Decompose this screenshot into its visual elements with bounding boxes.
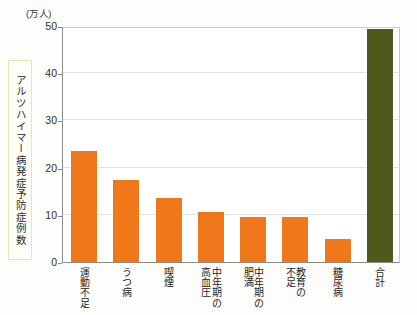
y-axis-unit-label: (万人)	[26, 6, 51, 20]
x-tick-label: 糖尿病	[316, 267, 358, 298]
x-tick-label-column: 不足	[284, 267, 294, 287]
gridline	[63, 72, 399, 73]
bar	[282, 217, 308, 262]
gridline	[63, 167, 399, 168]
x-tick-label-column: 教育の	[294, 267, 304, 298]
y-tick-label: 40	[33, 67, 57, 79]
x-tick-label-column: 高血圧	[200, 267, 210, 298]
x-tick-label-column: 合計	[374, 267, 384, 287]
y-axis-title: アルツハイマー病発症予防症例数	[14, 75, 25, 246]
y-tick-mark	[58, 263, 62, 264]
x-tick-label-column: うつ病	[120, 267, 130, 298]
bar	[198, 212, 224, 262]
y-tick-label: 20	[33, 162, 57, 174]
y-tick-label: 10	[33, 209, 57, 221]
bar	[156, 198, 182, 262]
x-tick-label: 中年期の肥満	[231, 267, 273, 308]
alzheimer-prevention-bar-chart: (万人) アルツハイマー病発症予防症例数 01020304050 運動不足うつ病…	[0, 0, 417, 315]
bar	[71, 151, 97, 262]
y-tick-label: 50	[33, 20, 57, 32]
x-tick-label-column: 肥満	[242, 267, 252, 287]
y-tick-label: 0	[33, 256, 57, 268]
plot-area	[62, 27, 400, 263]
x-tick-label-column: 中年期の	[252, 267, 262, 308]
y-tick-label: 30	[33, 114, 57, 126]
x-tick-label: 合計	[358, 267, 400, 287]
y-axis-title-box: アルツハイマー病発症予防症例数	[8, 60, 32, 260]
gridline	[63, 119, 399, 120]
x-tick-label: 喫煙	[147, 267, 189, 287]
bar	[367, 29, 393, 262]
x-tick-label-column: 運動不足	[78, 267, 88, 308]
bar	[113, 180, 139, 262]
bar	[325, 239, 351, 262]
x-tick-label: 運動不足	[62, 267, 104, 308]
x-tick-label: うつ病	[104, 267, 146, 298]
x-tick-label-column: 中年期の	[210, 267, 220, 308]
x-tick-label-column: 糖尿病	[332, 267, 342, 298]
x-tick-label-column: 喫煙	[163, 267, 173, 287]
x-tick-label: 教育の不足	[273, 267, 315, 298]
bar	[240, 217, 266, 262]
x-tick-label: 中年期の高血圧	[189, 267, 231, 308]
